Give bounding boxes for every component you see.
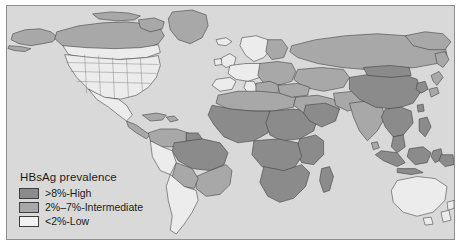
legend-item-low: <2%-Low xyxy=(19,215,143,228)
region-hispaniola xyxy=(166,116,178,122)
region-caribbean xyxy=(142,113,166,121)
region-sumatra xyxy=(375,151,405,167)
region-arctic-islands xyxy=(93,12,141,21)
legend-label-low: <2%-Low xyxy=(45,216,89,227)
region-java xyxy=(397,169,423,175)
region-mainland-southeast-asia xyxy=(381,107,413,137)
legend-swatch-high xyxy=(19,188,39,199)
legend-item-high: >8%-High xyxy=(19,187,143,200)
region-eastern-europe xyxy=(258,62,296,86)
region-alaska xyxy=(11,29,57,46)
region-southern-africa xyxy=(260,165,310,203)
legend-title: HBsAg prevalence xyxy=(20,171,143,183)
map-frame: HBsAg prevalence >8%-High 2%–7%-Intermed… xyxy=(6,5,455,240)
legend-label-intermediate: 2%–7%-Intermediate xyxy=(45,202,143,213)
region-finland-baltic xyxy=(266,40,288,60)
region-new-zealand-south xyxy=(441,210,451,222)
region-madagascar xyxy=(320,167,334,193)
region-new-zealand-north xyxy=(447,200,454,210)
region-central-america xyxy=(126,121,150,139)
region-taiwan xyxy=(417,104,424,112)
region-mongolia xyxy=(363,65,411,77)
region-borneo xyxy=(407,147,431,165)
region-japan xyxy=(431,71,443,85)
map-legend: HBsAg prevalence >8%-High 2%–7%-Intermed… xyxy=(19,171,143,229)
legend-swatch-intermediate xyxy=(19,202,39,213)
region-australia xyxy=(391,177,447,217)
hbsag-prevalence-map-figure: HBsAg prevalence >8%-High 2%–7%-Intermed… xyxy=(0,0,461,247)
legend-label-high: >8%-High xyxy=(45,188,91,199)
region-philippines xyxy=(419,117,431,137)
region-tasmania xyxy=(423,217,433,225)
region-malay-peninsula xyxy=(391,135,405,153)
legend-swatch-low xyxy=(19,216,39,227)
region-aleutians xyxy=(8,46,31,52)
region-iceland xyxy=(216,38,232,46)
legend-item-intermediate: 2%–7%-Intermediate xyxy=(19,201,143,214)
region-japan-south xyxy=(429,87,439,97)
region-papua-new-guinea xyxy=(439,155,454,167)
region-ireland xyxy=(214,59,222,66)
region-greenland xyxy=(168,10,208,44)
region-sri-lanka xyxy=(371,142,379,150)
region-iberia xyxy=(212,77,236,91)
